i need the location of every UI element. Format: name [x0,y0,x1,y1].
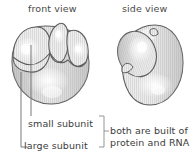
front-small-subunit-right-lobe [67,30,88,66]
composition-note-line-2: protein and RNA [110,137,189,148]
ribosome-diagram: front view side view small subunit large… [0,0,194,160]
side-view-title: side view [122,3,167,14]
front-view-shape [10,23,92,106]
composition-note-line-1: both are built of [110,125,188,136]
front-view-title: front view [28,3,77,14]
side-view-shape [112,23,186,107]
diagram-canvas [0,0,194,160]
front-small-subunit-left-lobe [13,27,51,72]
label-small-subunit: small subunit [28,118,93,129]
label-large-subunit: large subunit [24,140,88,151]
grouping-bracket [99,116,109,147]
